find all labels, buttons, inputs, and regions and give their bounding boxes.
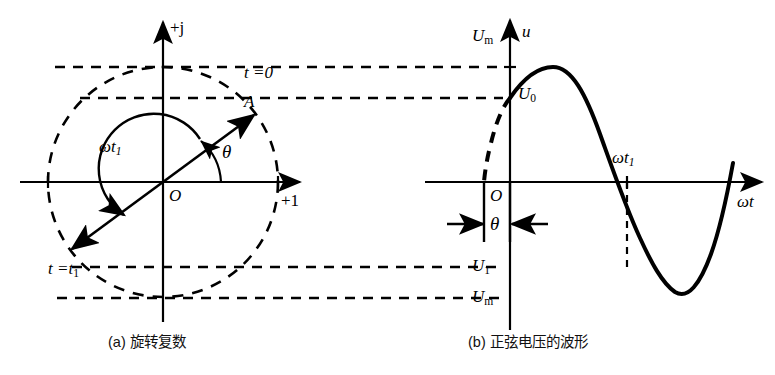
origin-label-a: O [169,186,181,206]
rotating-phasor-and-sine-waveform-figure [0,0,775,375]
theta-label-b: θ [490,213,499,235]
time-t1-label-sub: 1 [73,267,79,280]
omega-t1-marker-label: ωt1 [612,148,635,169]
initial-value-label-main: U [518,84,530,103]
initial-value-label: U0 [518,84,536,105]
time-zero-label: t =0 [244,63,273,83]
peak-positive-label-sub: m [484,34,493,47]
caption-panel-a: (a) 旋转复数 [108,330,186,351]
omega-t1-rotation-label-main: ωt [99,137,116,156]
voltage-axis-label: u [522,22,531,42]
imaginary-axis-label: +j [170,18,184,38]
time-t1-label: t =t1 [48,259,79,280]
sine-waveform-curve [510,67,733,294]
omega-t1-rotation-label: ωt1 [99,137,122,158]
time-t1-label-main: t =t [48,259,73,278]
sine-waveform-dashed-leadin [484,98,510,182]
omega-t1-rotation-label-sub: 1 [116,145,122,158]
theta-label-a: θ [222,141,231,163]
value-at-t1-label-main: U [472,256,484,275]
peak-positive-label: Um [472,26,493,47]
omega-t1-marker-label-sub: 1 [629,156,635,169]
peak-positive-label-main: U [472,26,484,45]
initial-value-label-sub: 0 [530,92,536,105]
real-axis-label: +1 [281,191,299,211]
peak-negative-label-main: U [472,287,484,306]
omega-t-axis-label: ωt [737,192,754,212]
origin-label-b: O [490,186,502,206]
value-at-t1-label: U1 [472,256,490,277]
peak-negative-label-sub: m [484,295,493,308]
peak-negative-label: Um [472,287,493,308]
caption-panel-b: (b) 正弦电压的波形 [468,330,588,351]
value-at-t1-label-sub: 1 [484,264,490,277]
phasor-tip-label: A [244,92,254,112]
phasor-arrow-t1 [72,182,163,249]
omega-t1-marker-label-main: ωt [612,148,629,167]
